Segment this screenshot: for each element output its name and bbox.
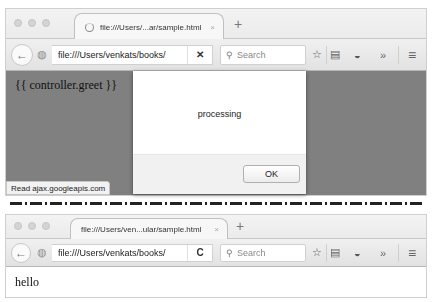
url-bar[interactable]: file:///Users/venkats/books/ ✕ — [52, 45, 213, 65]
toolbar-separator — [326, 244, 327, 262]
overflow-chevron-icon[interactable]: » — [380, 247, 386, 259]
bookmark-star-icon[interactable]: ☆ — [312, 246, 322, 259]
reload-button[interactable]: C — [187, 245, 212, 261]
search-input[interactable]: ⚲ Search — [220, 45, 306, 65]
tab-bar: file:///Users/...ar/sample.html × + — [6, 9, 426, 39]
template-expression: {{ controller.greet }} — [15, 78, 117, 93]
maximize-window-button[interactable] — [42, 222, 50, 230]
tab-bar: file:///Users/ven...ular/sample.html × + — [6, 215, 426, 239]
loading-spinner-icon — [85, 23, 94, 32]
stop-button[interactable]: ✕ — [187, 46, 212, 64]
back-arrow-icon: ← — [15, 246, 27, 260]
close-window-button[interactable] — [14, 222, 22, 230]
site-identity-icon[interactable]: ◍ — [37, 246, 47, 259]
minimize-window-button[interactable] — [28, 19, 36, 27]
dash-dot-divider — [10, 202, 423, 205]
back-arrow-icon: ← — [16, 48, 28, 62]
back-button[interactable]: ← — [11, 243, 31, 263]
minimize-window-button[interactable] — [28, 222, 36, 230]
toolbar-separator — [326, 46, 327, 64]
window-controls — [14, 222, 50, 230]
page-content-dimmed: {{ controller.greet }} processing OK Rea… — [6, 71, 426, 195]
site-identity-icon[interactable]: ◍ — [37, 48, 47, 61]
toolbar-separator — [398, 244, 399, 262]
tab-title: file:///Users/ven...ular/sample.html — [81, 225, 214, 234]
pocket-icon[interactable]: ◒ — [354, 247, 361, 259]
tab-sample-html[interactable]: file:///Users/...ar/sample.html × — [74, 13, 224, 40]
overflow-chevron-icon[interactable]: » — [380, 49, 386, 61]
back-button[interactable]: ← — [11, 44, 33, 66]
browser-window-before: file:///Users/...ar/sample.html × + ← ◍ … — [5, 8, 427, 196]
tab-close-icon[interactable]: × — [214, 225, 219, 234]
navigation-bar: ← ◍ file:///Users/venkats/books/ C ⚲ Sea… — [6, 239, 426, 267]
search-icon: ⚲ — [226, 50, 233, 60]
reading-list-icon[interactable]: ▤ — [330, 246, 340, 259]
search-input[interactable]: ⚲ Search — [220, 244, 306, 262]
greeting-text: hello — [15, 275, 39, 290]
navigation-bar: ← ◍ file:///Users/venkats/books/ ✕ ⚲ Sea… — [6, 39, 426, 71]
url-bar[interactable]: file:///Users/venkats/books/ C — [52, 244, 213, 262]
search-placeholder: Search — [237, 50, 266, 60]
tab-sample-html[interactable]: file:///Users/ven...ular/sample.html × — [70, 218, 228, 240]
close-window-button[interactable] — [14, 19, 22, 27]
status-bar: Read ajax.googleapis.com — [6, 181, 110, 195]
maximize-window-button[interactable] — [42, 19, 50, 27]
tab-close-icon[interactable]: × — [210, 23, 215, 32]
window-controls — [14, 19, 50, 27]
hamburger-menu-icon[interactable]: ≡ — [408, 245, 416, 261]
toolbar-separator — [398, 46, 399, 64]
alert-dialog: processing OK — [133, 71, 306, 194]
new-tab-button[interactable]: + — [236, 218, 244, 234]
bookmark-star-icon[interactable]: ☆ — [312, 48, 322, 61]
search-icon: ⚲ — [226, 248, 233, 258]
reading-list-icon[interactable]: ▤ — [330, 48, 340, 61]
tab-title: file:///Users/...ar/sample.html — [100, 23, 210, 32]
new-tab-button[interactable]: + — [234, 16, 242, 32]
ok-button[interactable]: OK — [243, 165, 300, 183]
search-placeholder: Search — [237, 248, 266, 258]
pocket-icon[interactable]: ◒ — [354, 49, 361, 61]
url-text[interactable]: file:///Users/venkats/books/ — [58, 50, 187, 60]
dialog-footer: OK — [133, 154, 306, 194]
url-text[interactable]: file:///Users/venkats/books/ — [58, 248, 187, 258]
page-content: hello — [6, 268, 426, 297]
hamburger-menu-icon[interactable]: ≡ — [408, 47, 416, 63]
browser-window-after: file:///Users/ven...ular/sample.html × +… — [5, 214, 427, 298]
dialog-message: processing — [133, 109, 306, 119]
